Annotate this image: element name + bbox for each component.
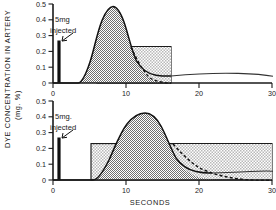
bottom-x-ticklabel-2: 20 [195,186,203,195]
top-recirculation-curve [171,73,273,76]
bottom-x-ticklabel-3: 30 [268,186,276,195]
top-y-ticklabel-1: 0.1 [36,63,46,72]
bottom-y-ticklabel-2: 0.2 [36,144,46,153]
top-x-ticklabel-2: 20 [195,89,203,98]
top-y-ticklabel-5: 0.5 [36,0,46,9]
top-x-ticklabel-3: 30 [268,89,276,98]
bottom-x-ticklabel-1: 10 [122,186,130,195]
top-annotation-line1: 5mg [55,15,70,24]
bottom-y-ticklabel-4: 0.4 [36,112,46,121]
bottom-x-ticklabel-0: 0 [51,186,55,195]
bottom-chart-panel: 5mg. injected 0 0.1 0.2 0.3 0.4 0.5 0 10… [36,97,276,207]
y-axis-units: (mg. %) [13,90,22,120]
bottom-annotation-line1: 5mg. [55,112,72,121]
bottom-y-ticklabel-1: 0.1 [36,160,46,169]
bottom-y-ticklabel-0: 0 [42,176,46,185]
top-y-ticklabel-3: 0.3 [36,31,46,40]
dye-dilution-figure: DYE CONCENTRATION IN ARTERY (mg. %) 5mg … [0,0,276,210]
top-x-ticklabel-1: 10 [122,89,130,98]
bottom-y-ticklabel-3: 0.3 [36,128,46,137]
top-annotation-line2: injected [50,26,76,35]
top-y-ticklabel-2: 0.2 [36,47,46,56]
y-axis-title: DYE CONCENTRATION IN ARTERY [3,10,12,148]
top-y-ticklabel-0: 0 [42,79,46,88]
top-chart-panel: 5mg injected 0 0.1 0.2 0.3 0.4 0.5 0 10 … [36,0,276,98]
bottom-annotation-line2: injected [50,123,76,132]
x-axis-title: SECONDS [130,198,171,207]
top-x-ticklabel-0: 0 [51,89,55,98]
bottom-y-ticklabel-5: 0.5 [36,97,46,106]
top-y-ticklabel-4: 0.4 [36,15,46,24]
figure-svg: DYE CONCENTRATION IN ARTERY (mg. %) 5mg … [0,0,276,210]
